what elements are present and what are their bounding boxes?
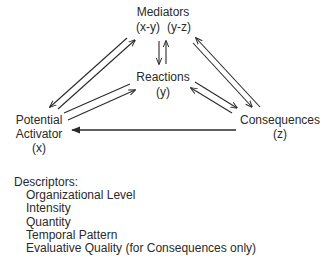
arrow-activator-to-reactions (68, 90, 135, 120)
descriptor-item: Intensity (14, 202, 256, 215)
mediators-title: Mediators (133, 6, 193, 19)
activator-line1: Potential (8, 114, 70, 127)
descriptor-item: Evaluative Quality (for Consequences onl… (14, 242, 256, 255)
mediators-subscript-right: (y-z) (167, 21, 191, 34)
consequences-title: Consequences (238, 114, 322, 127)
node-mediators: Mediators (133, 6, 193, 19)
activator-line2: Activator (8, 128, 70, 141)
node-consequences: Consequences (z) (238, 114, 322, 141)
node-activator: Potential Activator (x) (8, 114, 70, 155)
consequences-subscript: (z) (238, 128, 322, 141)
activator-subscript: (x) (8, 142, 70, 155)
descriptor-item: Quantity (14, 216, 256, 229)
mediators-subscript-left: (x-y) (136, 21, 160, 34)
arrow-mediators-to-activator (50, 38, 127, 107)
reactions-title: Reactions (133, 71, 193, 84)
descriptors-list: Descriptors: Organizational Level Intens… (14, 176, 256, 255)
line-activator-reactions (64, 84, 130, 113)
reactions-subscript: (y) (133, 86, 193, 99)
node-reactions: Reactions (y) (133, 71, 193, 99)
arrow-mediators-to-consequences (193, 43, 252, 107)
arrow-reactions-to-consequences (195, 82, 237, 108)
